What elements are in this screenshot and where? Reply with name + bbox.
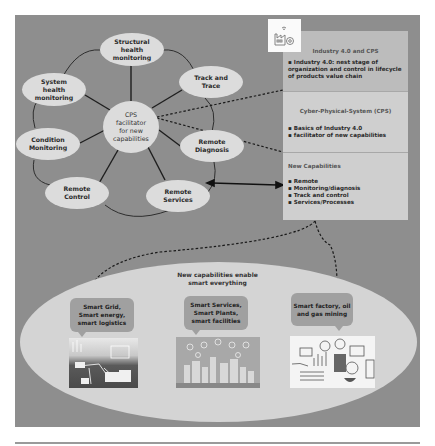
node-remote-diagnosis: Remote Diagnosis	[180, 130, 244, 162]
node-track-and-trace: Track and Trace	[179, 66, 243, 98]
smart-grid-illustration	[69, 338, 138, 388]
node-remote-services: Remote Services	[146, 180, 210, 212]
bullet-item: facilitator of new capabilities	[288, 132, 403, 139]
node-condition-monitoring: Condition Monitoring	[16, 128, 80, 160]
bubble-smart-grid: Smart Grid, Smart energy, smart logistic…	[70, 298, 134, 332]
bullet-item: Industry 4.0: nest stage of organization…	[288, 59, 403, 80]
bubble-smart-services: Smart Services, Smart Plants, smart faci…	[184, 296, 248, 330]
info-box-title: Industry 4.0 and CPS	[288, 48, 403, 55]
bullet-item: Track and control	[288, 192, 403, 199]
info-box-industry-4-and-cps: Industry 4.0 and CPS Industry 4.0: nest …	[283, 31, 408, 91]
bullet-item: Remote	[288, 178, 403, 185]
page-divider	[15, 442, 420, 444]
smart-factory-illustration	[290, 336, 375, 388]
bubble-smart-factory: Smart factory, oil and gas mining	[291, 293, 353, 326]
node-cps-facilitator: CPS facilitator for new capabilities	[103, 101, 159, 153]
node-system-health-monitoring: System health monitoring	[22, 73, 86, 106]
info-box-cps: Cyber-Physical-System (CPS) Basics of In…	[283, 91, 408, 152]
bullet-list: Industry 4.0: nest stage of organization…	[288, 59, 403, 80]
smart-everything-title: New capabilities enable smart everything	[150, 271, 285, 287]
bullet-item: Monitoring/diagnosis	[288, 185, 403, 192]
info-box-new-capabilities: New Capabilities Remote Monitoring/diagn…	[283, 152, 408, 220]
node-remote-control: Remote Control	[45, 177, 109, 209]
bullet-list: Basics of Industry 4.0 facilitator of ne…	[288, 125, 403, 139]
info-box-title: New Capabilities	[288, 163, 403, 170]
smart-factory-icon	[268, 19, 301, 52]
bullet-list: Remote Monitoring/diagnosis Track and co…	[288, 178, 403, 206]
smart-city-illustration	[176, 337, 260, 388]
bullet-item: Services/Processes	[288, 199, 403, 206]
bullet-item: Basics of Industry 4.0	[288, 125, 403, 132]
node-structural-health-monitoring: Structural health monitoring	[100, 33, 164, 66]
info-box-title: Cyber-Physical-System (CPS)	[288, 108, 403, 115]
